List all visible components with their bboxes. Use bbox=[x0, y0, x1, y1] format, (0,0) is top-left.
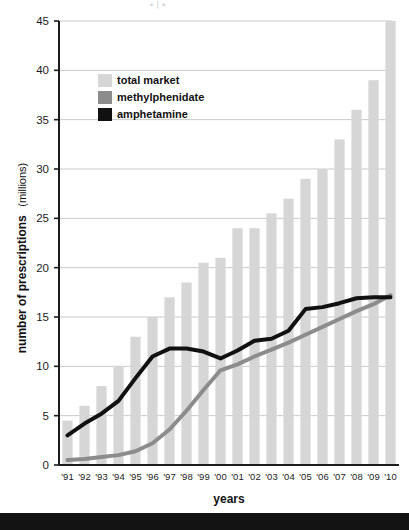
x-tick-label-95: '95 bbox=[129, 471, 141, 482]
chart-legend: total marketmethylphenidateamphetamine bbox=[98, 74, 204, 121]
x-tick-label-07: '07 bbox=[333, 471, 345, 482]
legend-swatch-amphetamine bbox=[98, 108, 112, 121]
x-tick-label-94: '94 bbox=[112, 471, 124, 482]
bar-00 bbox=[215, 258, 225, 465]
bar-92 bbox=[79, 406, 89, 465]
x-tick-label-91: '91 bbox=[61, 471, 73, 482]
bar-99 bbox=[198, 263, 208, 465]
x-tick-label-03: '03 bbox=[265, 471, 277, 482]
legend-label-total-market: total market bbox=[117, 74, 180, 86]
y-axis-title: number of prescriptions (millions) bbox=[12, 163, 29, 353]
bar-94 bbox=[113, 366, 123, 465]
y-axis-title-unit: (millions) bbox=[16, 163, 28, 207]
bar-09 bbox=[368, 80, 378, 465]
bar-series-total-market bbox=[62, 21, 395, 465]
prescriptions-bar-line-chart: 051015202530354045 '91'92'93'94'95'96'97… bbox=[0, 0, 409, 530]
bar-98 bbox=[181, 282, 191, 465]
bar-05 bbox=[300, 179, 310, 465]
bar-02 bbox=[249, 228, 259, 465]
x-tick-label-04: '04 bbox=[282, 471, 294, 482]
x-tick-label-05: '05 bbox=[299, 471, 311, 482]
x-tick-label-92: '92 bbox=[78, 471, 90, 482]
bar-10 bbox=[385, 21, 395, 465]
bar-06 bbox=[317, 169, 327, 465]
y-tick-label-5: 5 bbox=[43, 410, 49, 422]
x-tick-label-09: '09 bbox=[367, 471, 379, 482]
x-tick-label-02: '02 bbox=[248, 471, 260, 482]
bar-08 bbox=[351, 110, 361, 465]
y-tick-label-30: 30 bbox=[36, 163, 49, 175]
x-tick-label-00: '00 bbox=[214, 471, 226, 482]
page-bottom-band bbox=[0, 513, 409, 530]
x-tick-label-93: '93 bbox=[95, 471, 107, 482]
y-axis-title-main: number of prescriptions bbox=[15, 215, 29, 353]
x-tick-label-99: '99 bbox=[197, 471, 209, 482]
x-tick-label-08: '08 bbox=[350, 471, 362, 482]
legend-swatch-methylphenidate bbox=[98, 91, 112, 104]
x-tick-label-96: '96 bbox=[146, 471, 158, 482]
legend-swatch-total-market bbox=[98, 74, 112, 87]
x-axis-ticks: '91'92'93'94'95'96'97'98'99'00'01'02'03'… bbox=[61, 471, 396, 482]
y-axis-ticks: 051015202530354045 bbox=[36, 15, 59, 471]
legend-label-amphetamine: amphetamine bbox=[117, 108, 188, 120]
legend-label-methylphenidate: methylphenidate bbox=[117, 91, 204, 103]
x-tick-label-01: '01 bbox=[231, 471, 243, 482]
x-tick-label-10: '10 bbox=[384, 471, 396, 482]
x-axis-title: years bbox=[213, 492, 245, 506]
y-tick-label-15: 15 bbox=[36, 311, 49, 323]
svg-text:number of prescriptions: number of prescriptions (millions) bbox=[12, 163, 29, 353]
bar-95 bbox=[130, 337, 140, 465]
bar-97 bbox=[164, 297, 174, 465]
y-tick-label-45: 45 bbox=[36, 15, 49, 27]
y-tick-label-40: 40 bbox=[36, 64, 49, 76]
chart-figure: • | • 051015202530354045 '91'92'93'94'95… bbox=[0, 0, 409, 530]
x-tick-label-97: '97 bbox=[163, 471, 175, 482]
y-tick-label-20: 20 bbox=[36, 262, 49, 274]
x-tick-label-06: '06 bbox=[316, 471, 328, 482]
y-tick-label-0: 0 bbox=[43, 459, 49, 471]
y-tick-label-35: 35 bbox=[36, 114, 49, 126]
y-tick-label-10: 10 bbox=[36, 360, 49, 372]
y-tick-label-25: 25 bbox=[36, 212, 49, 224]
bar-93 bbox=[96, 386, 106, 465]
x-tick-label-98: '98 bbox=[180, 471, 192, 482]
plot-area: 051015202530354045 '91'92'93'94'95'96'97… bbox=[0, 0, 409, 530]
